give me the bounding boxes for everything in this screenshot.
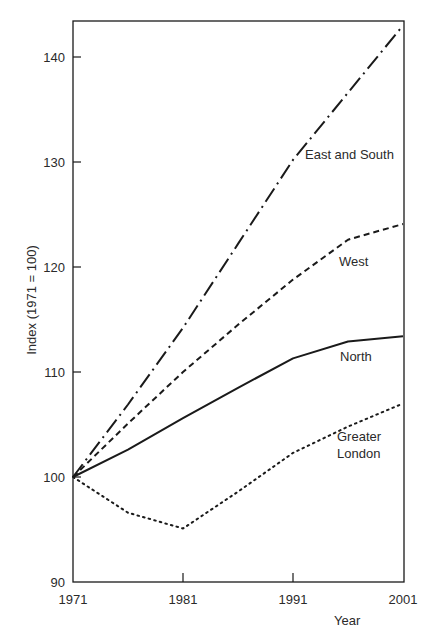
x-axis-title: Year — [334, 613, 361, 628]
series-line-greater-london — [73, 404, 403, 529]
series-label-west: West — [339, 254, 369, 269]
x-axis: 1971198119912001 — [59, 573, 418, 607]
plot-border — [73, 21, 404, 582]
y-tick-label: 90 — [51, 575, 65, 590]
y-tick-label: 110 — [44, 365, 65, 380]
x-tick-label: 2001 — [389, 592, 418, 607]
y-axis-title: Index (1971 = 100) — [24, 245, 39, 355]
line-chart: 90100110120130140 1971198119912001 East … — [0, 0, 431, 641]
series-line-east-and-south — [73, 26, 403, 478]
series-label-north: North — [340, 349, 372, 364]
series-label-greater-london: GreaterLondon — [337, 429, 382, 461]
series-labels: East and SouthWestNorthGreaterLondon — [305, 147, 394, 461]
y-axis: 90100110120130140 — [43, 50, 81, 590]
plot-frame — [73, 21, 404, 582]
series-label-east-and-south: East and South — [305, 147, 394, 162]
x-tick-label: 1981 — [169, 592, 198, 607]
x-tick-label: 1971 — [59, 592, 88, 607]
x-tick-label: 1991 — [279, 592, 308, 607]
y-tick-label: 140 — [43, 50, 65, 65]
y-tick-label: 100 — [43, 470, 65, 485]
y-tick-label: 120 — [43, 260, 65, 275]
y-tick-label: 130 — [43, 155, 65, 170]
